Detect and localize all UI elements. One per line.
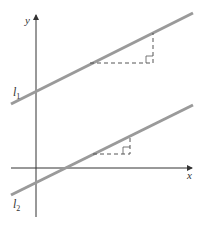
line-l1 <box>11 13 193 104</box>
y-axis-label: y <box>24 14 30 26</box>
right-angle-marker-l1 <box>146 56 153 63</box>
line-l2-label: l2 <box>13 197 20 213</box>
line-l2 <box>11 105 193 195</box>
right-angle-marker-l2 <box>123 147 130 154</box>
x-axis-label: x <box>186 169 192 181</box>
axes <box>11 15 192 217</box>
line-l1-label: l1 <box>13 85 20 101</box>
parallel-lines-diagram: y x l1 l2 <box>0 0 208 229</box>
